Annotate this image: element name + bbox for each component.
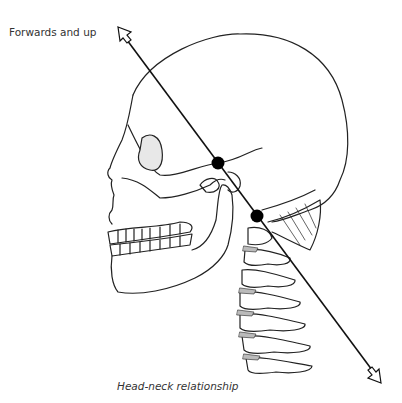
orbit xyxy=(138,135,162,170)
skull-illustration xyxy=(0,0,402,403)
upper-pivot-dot xyxy=(212,157,225,170)
figure-caption: Head-neck relationship xyxy=(117,380,239,392)
lower-pivot-dot xyxy=(251,210,264,223)
head-neck-axis xyxy=(118,27,381,383)
cervical-spine xyxy=(237,227,312,373)
arrow-down-icon xyxy=(368,367,381,383)
arrow-up-icon xyxy=(118,27,131,43)
mandible xyxy=(111,185,233,293)
face-outline xyxy=(108,95,133,224)
neck-muscles xyxy=(262,190,321,250)
